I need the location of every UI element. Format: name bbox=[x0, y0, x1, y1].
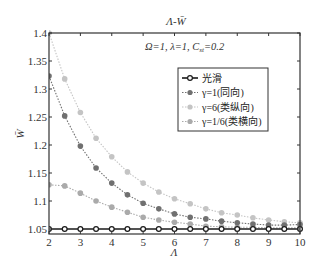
y-tick-label: 1.35 bbox=[28, 55, 48, 67]
data-point bbox=[94, 227, 99, 232]
data-point bbox=[62, 183, 68, 189]
y-tick-label: 1.3 bbox=[33, 83, 47, 95]
data-point bbox=[172, 219, 178, 225]
data-point bbox=[251, 227, 256, 232]
data-point bbox=[187, 214, 193, 220]
y-tick-label: 1.2 bbox=[33, 139, 47, 151]
data-point bbox=[266, 227, 271, 232]
data-point bbox=[235, 227, 240, 232]
data-point bbox=[156, 227, 161, 232]
y-tick-label: 1.1 bbox=[33, 195, 47, 207]
data-point bbox=[93, 135, 99, 141]
legend-label: γ=1(同向) bbox=[201, 86, 244, 99]
legend-marker bbox=[187, 119, 192, 124]
data-point bbox=[125, 227, 130, 232]
data-point bbox=[219, 210, 225, 216]
x-tick-label: 2 bbox=[46, 236, 52, 248]
data-point bbox=[125, 209, 131, 215]
data-point bbox=[203, 227, 208, 232]
legend-label: γ=6(类纵向) bbox=[201, 101, 254, 114]
data-point bbox=[234, 220, 240, 226]
data-point bbox=[282, 227, 287, 232]
parameter-annotation: Ω=1, λ=1, Cst=0.2 bbox=[145, 41, 225, 54]
data-point bbox=[140, 214, 146, 220]
data-point bbox=[62, 227, 67, 232]
data-point bbox=[93, 198, 99, 204]
series-3 bbox=[46, 182, 303, 231]
data-point bbox=[109, 227, 114, 232]
data-point bbox=[188, 227, 193, 232]
data-point bbox=[140, 200, 146, 206]
data-point bbox=[78, 143, 84, 149]
legend-marker bbox=[187, 90, 192, 95]
data-point bbox=[156, 206, 162, 212]
x-tick-label: 3 bbox=[78, 236, 84, 248]
legend-label: 光滑 bbox=[202, 72, 222, 84]
data-point bbox=[219, 227, 224, 232]
y-tick-label: 1.25 bbox=[28, 111, 48, 123]
data-point bbox=[172, 196, 178, 202]
legend-label: γ=1/6(类横向) bbox=[201, 115, 262, 128]
data-point bbox=[109, 180, 115, 186]
data-point bbox=[141, 227, 146, 232]
data-point bbox=[62, 76, 68, 82]
line-chart: Λ-W̄ 23456789101.051.11.151.21.251.31.35… bbox=[0, 0, 318, 272]
data-point bbox=[156, 189, 162, 195]
y-tick-label: 1.4 bbox=[33, 27, 47, 39]
legend-marker bbox=[188, 76, 193, 81]
data-point bbox=[125, 169, 131, 175]
data-point bbox=[109, 154, 115, 160]
data-point bbox=[93, 165, 99, 171]
data-point bbox=[203, 206, 209, 212]
data-point bbox=[234, 212, 240, 218]
data-point bbox=[140, 180, 146, 186]
data-point bbox=[62, 113, 68, 119]
y-axis-label: W̄ bbox=[14, 129, 26, 139]
x-tick-label: 9 bbox=[266, 236, 272, 248]
data-point bbox=[250, 215, 256, 221]
axes: 23456789101.051.11.151.21.251.31.351.4 bbox=[28, 27, 306, 248]
x-tick-label: 4 bbox=[109, 236, 115, 248]
y-tick-label: 1.15 bbox=[28, 167, 48, 179]
x-tick-label: 7 bbox=[203, 236, 209, 248]
data-point bbox=[78, 110, 84, 116]
legend-marker bbox=[187, 104, 192, 109]
data-point bbox=[78, 227, 83, 232]
data-point bbox=[250, 221, 256, 227]
chart-title: Λ-W̄ bbox=[165, 15, 186, 27]
data-point bbox=[156, 217, 162, 223]
x-tick-label: 8 bbox=[235, 236, 241, 248]
axes-frame bbox=[49, 33, 300, 234]
data-point bbox=[172, 227, 177, 232]
data-point bbox=[109, 204, 115, 210]
y-tick-label: 1.05 bbox=[28, 223, 48, 235]
data-point bbox=[187, 221, 193, 227]
data-point bbox=[203, 216, 209, 222]
data-point bbox=[266, 217, 272, 223]
data-point bbox=[78, 190, 84, 196]
data-point bbox=[187, 201, 193, 207]
x-tick-label: 5 bbox=[140, 236, 146, 248]
x-tick-label: 10 bbox=[295, 236, 307, 248]
data-point bbox=[172, 211, 178, 217]
data-point bbox=[125, 192, 131, 198]
data-point bbox=[219, 218, 225, 224]
x-axis-label: Λ bbox=[170, 246, 178, 258]
legend: 光滑γ=1(同向)γ=6(类纵向)γ=1/6(类横向) bbox=[178, 68, 268, 131]
series-0 bbox=[47, 227, 303, 232]
